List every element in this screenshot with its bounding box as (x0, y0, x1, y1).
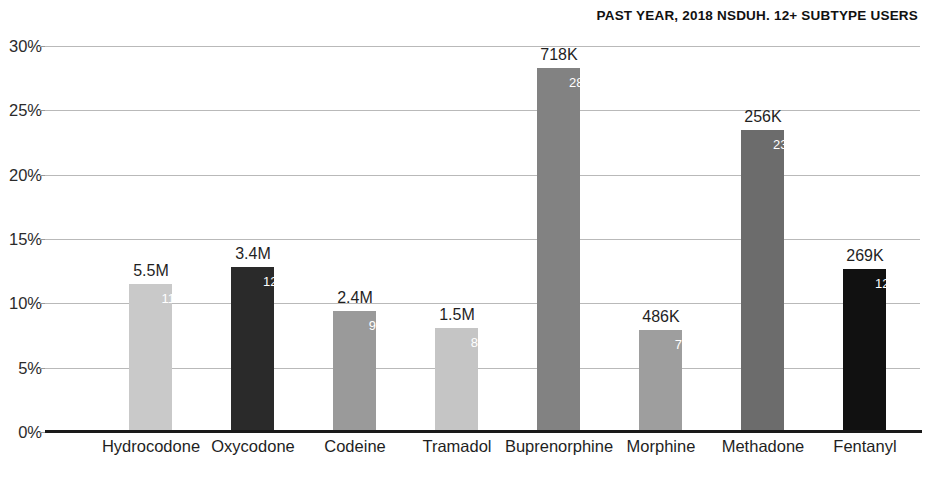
x-axis-tick-label: Tramadol (402, 437, 512, 456)
bar-group[interactable]: 12.7%269K (814, 46, 916, 432)
bar-value-label: 12.7% (872, 276, 915, 291)
bar-group[interactable]: 9.4%2.4M (304, 46, 406, 432)
bar-group[interactable]: 8.1%1.5M (406, 46, 508, 432)
y-axis-tick-label: 0% (0, 423, 42, 442)
bar-group[interactable]: 11.5%5.5M (100, 46, 202, 432)
bar[interactable]: 12.7% (843, 269, 886, 432)
bar[interactable]: 9.4% (333, 311, 376, 432)
bar-value-label: 8.1% (464, 335, 507, 350)
x-axis-tick-label: Hydrocodone (96, 437, 206, 456)
bar-count-label: 1.5M (406, 306, 508, 324)
bar-count-label: 269K (814, 247, 916, 265)
bar-count-label: 3.4M (202, 245, 304, 263)
bar[interactable]: 8.1% (435, 328, 478, 432)
bar-group[interactable]: 7.9%486K (610, 46, 712, 432)
y-axis-tick-label: 5% (0, 358, 42, 377)
bar-group[interactable]: 23.5%256K (712, 46, 814, 432)
x-axis-labels: HydrocodoneOxycodoneCodeineTramadolBupre… (45, 437, 920, 467)
bar[interactable]: 12.8% (231, 267, 274, 432)
x-axis-tick-label: Morphine (606, 437, 716, 456)
plot-area: 11.5%5.5M12.8%3.4M9.4%2.4M8.1%1.5M28.3%7… (45, 46, 920, 432)
bar-count-label: 718K (508, 46, 610, 64)
x-axis-line (45, 430, 922, 433)
bar-count-label: 5.5M (100, 262, 202, 280)
bar-group[interactable]: 12.8%3.4M (202, 46, 304, 432)
bar-value-label: 9.4% (362, 318, 405, 333)
bar-count-label: 486K (610, 308, 712, 326)
x-axis-tick-label: Buprenorphine (504, 437, 614, 456)
bar-group[interactable]: 28.3%718K (508, 46, 610, 432)
x-axis-tick-label: Fentanyl (810, 437, 920, 456)
chart-title: PAST YEAR, 2018 NSDUH. 12+ SUBTYPE USERS (597, 8, 918, 23)
y-axis-tick-label: 30% (0, 37, 42, 56)
x-axis-tick-label: Codeine (300, 437, 410, 456)
bar[interactable]: 11.5% (129, 284, 172, 432)
bar-value-label: 23.5% (770, 137, 813, 152)
y-axis-tick-label: 25% (0, 101, 42, 120)
bar[interactable]: 7.9% (639, 330, 682, 432)
bar-value-label: 7.9% (668, 337, 711, 352)
bar[interactable]: 28.3% (537, 68, 580, 432)
bar-count-label: 2.4M (304, 289, 406, 307)
bar[interactable]: 23.5% (741, 130, 784, 432)
bar-value-label: 12.8% (260, 274, 303, 289)
x-axis-tick-label: Oxycodone (198, 437, 308, 456)
y-axis-tick-label: 20% (0, 165, 42, 184)
x-axis-tick-label: Methadone (708, 437, 818, 456)
y-axis-tick-label: 10% (0, 294, 42, 313)
bar-value-label: 11.5% (158, 291, 201, 306)
bar-count-label: 256K (712, 108, 814, 126)
y-axis-tick-label: 15% (0, 230, 42, 249)
bar-value-label: 28.3% (566, 75, 609, 90)
bar-chart: PAST YEAR, 2018 NSDUH. 12+ SUBTYPE USERS… (0, 0, 926, 483)
